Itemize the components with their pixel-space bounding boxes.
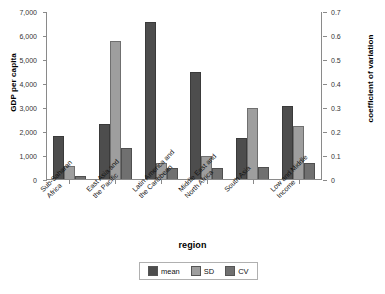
y-tick-right	[323, 132, 327, 133]
legend-item[interactable]: SD	[191, 266, 214, 276]
y-tick-right	[323, 84, 327, 85]
y-tick-label-left: 0	[0, 177, 37, 184]
y-tick-right	[323, 180, 327, 181]
y-tick-right	[323, 60, 327, 61]
bar-cv	[258, 167, 269, 179]
legend-swatch-icon	[148, 266, 158, 276]
y-tick-label-left: 1,000	[0, 153, 37, 160]
y-tick-label-right: 0.5	[331, 57, 371, 64]
y-tick-label-left: 6,000	[0, 33, 37, 40]
y-tick-label-left: 5,000	[0, 57, 37, 64]
y-tick-label-right: 0	[331, 177, 371, 184]
y-tick-right	[323, 36, 327, 37]
y-tick-label-right: 0.7	[331, 9, 371, 16]
legend-item[interactable]: CV	[225, 266, 248, 276]
chart-container: GDP per capita coefficient of variation …	[0, 0, 385, 294]
bar-cv	[75, 176, 86, 179]
legend-item[interactable]: mean	[148, 266, 180, 276]
legend-swatch-icon	[225, 266, 235, 276]
y-tick-right	[323, 12, 327, 13]
legend-swatch-icon	[191, 266, 201, 276]
bar-mean	[145, 22, 156, 179]
legend-label: CV	[238, 267, 248, 276]
y-tick-label-left: 4,000	[0, 81, 37, 88]
legend-label: SD	[204, 267, 214, 276]
x-axis-title: region	[0, 240, 385, 250]
x-tick	[253, 180, 254, 184]
y-tick-label-right: 0.3	[331, 105, 371, 112]
y-tick-right	[323, 108, 327, 109]
chart-legend: meanSDCV	[139, 262, 258, 280]
y-tick-label-right: 0.4	[331, 81, 371, 88]
y-tick-label-right: 0.6	[331, 33, 371, 40]
legend-label: mean	[161, 267, 180, 276]
y-tick-label-left: 2,000	[0, 129, 37, 136]
y-tick-label-left: 3,000	[0, 105, 37, 112]
y-tick-label-left: 7,000	[0, 9, 37, 16]
bar-mean	[190, 72, 201, 179]
y-tick-label-right: 0.2	[331, 129, 371, 136]
y-tick-label-right: 0.1	[331, 153, 371, 160]
